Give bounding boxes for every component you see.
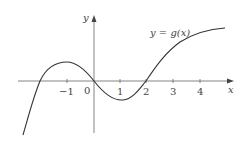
x-axis-arrow-icon bbox=[227, 79, 234, 84]
curve-g bbox=[23, 28, 225, 135]
x-axis-label: x bbox=[228, 84, 234, 95]
graph-canvas: −1 0 1 2 3 4 x y y = g(x) bbox=[0, 0, 244, 141]
tick-label-3: 3 bbox=[170, 86, 176, 97]
y-axis-label: y bbox=[82, 12, 89, 23]
tick-label-2: 2 bbox=[143, 86, 149, 97]
tick-label-4: 4 bbox=[197, 86, 203, 97]
curve-label: y = g(x) bbox=[149, 27, 190, 38]
tick-label-minus-1: −1 bbox=[59, 86, 74, 97]
y-axis-arrow-icon bbox=[92, 15, 97, 22]
tick-label-0: 0 bbox=[84, 85, 90, 96]
tick-label-1: 1 bbox=[117, 86, 123, 97]
